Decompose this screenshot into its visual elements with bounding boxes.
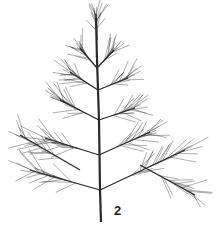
branch-lines <box>20 14 195 195</box>
figure-number-label: 2 <box>114 203 121 218</box>
branch-illustration <box>0 0 221 231</box>
needle-clusters <box>8 0 212 207</box>
